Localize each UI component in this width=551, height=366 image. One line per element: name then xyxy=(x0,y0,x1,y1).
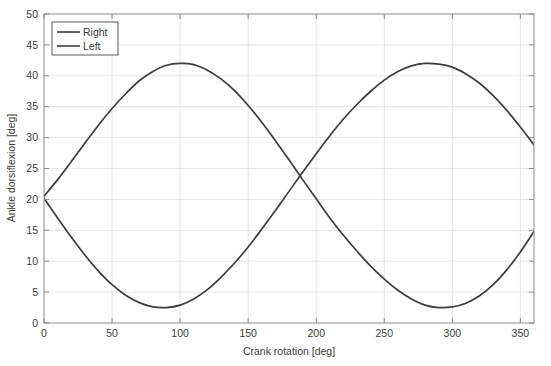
x-axis-title: Crank rotation [deg] xyxy=(243,345,335,357)
chart-svg: 0510152025303540455005010015020025030035… xyxy=(0,0,551,366)
y-tick-label: 5 xyxy=(32,286,38,298)
x-tick-label: 200 xyxy=(307,327,325,339)
y-tick-label: 0 xyxy=(32,317,38,329)
y-tick-label: 15 xyxy=(26,224,38,236)
x-tick-label: 100 xyxy=(171,327,189,339)
legend[interactable]: Right Left xyxy=(52,22,118,55)
x-tick-label: 350 xyxy=(512,327,530,339)
y-tick-label: 40 xyxy=(26,69,38,81)
y-tick-label: 45 xyxy=(26,39,38,51)
y-tick-label: 35 xyxy=(26,100,38,112)
legend-label-right: Right xyxy=(83,26,108,38)
y-tick-label: 50 xyxy=(26,8,38,20)
x-tick-label: 250 xyxy=(376,327,394,339)
y-tick-label: 30 xyxy=(26,131,38,143)
figure-canvas: 0510152025303540455005010015020025030035… xyxy=(0,0,551,366)
x-tick-label: 50 xyxy=(106,327,118,339)
x-tick-label: 300 xyxy=(444,327,462,339)
y-tick-label: 25 xyxy=(26,162,38,174)
x-tick-label: 0 xyxy=(41,327,47,339)
y-tick-label: 10 xyxy=(26,255,38,267)
y-axis-title: Ankle dorsiflexion [deg] xyxy=(5,114,17,223)
y-tick-label: 20 xyxy=(26,193,38,205)
x-tick-label: 150 xyxy=(239,327,257,339)
legend-label-left: Left xyxy=(83,40,101,52)
